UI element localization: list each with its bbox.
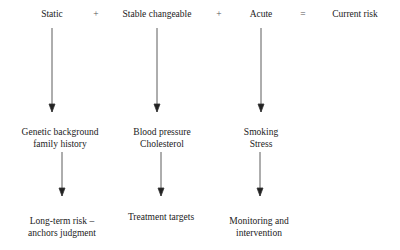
implication-static-line2: anchors judgment — [28, 227, 96, 239]
example-acute: Smoking Stress — [244, 126, 278, 150]
arrowhead-icon — [258, 104, 264, 112]
example-stable-line1: Blood pressure — [133, 126, 190, 138]
example-stable-line2: Cholesterol — [133, 138, 190, 150]
example-static: Genetic background family history — [22, 126, 99, 150]
implication-acute-line1: Monitoring and — [229, 215, 288, 227]
arrowhead-icon — [49, 104, 55, 112]
implication-static: Long-term risk – anchors judgment — [28, 215, 96, 239]
implication-stable: Treatment targets — [128, 211, 194, 223]
arrows — [0, 0, 400, 250]
example-stable: Blood pressure Cholesterol — [133, 126, 190, 150]
example-static-line1: Genetic background — [22, 126, 99, 138]
arrowhead-icon — [154, 104, 160, 112]
example-static-line2: family history — [22, 138, 99, 150]
implication-acute-line2: intervention — [229, 227, 288, 239]
implication-acute: Monitoring and intervention — [229, 215, 288, 239]
example-acute-line2: Stress — [244, 138, 278, 150]
implication-static-line1: Long-term risk – — [28, 215, 96, 227]
example-acute-line1: Smoking — [244, 126, 278, 138]
implication-stable-line1: Treatment targets — [128, 211, 194, 223]
